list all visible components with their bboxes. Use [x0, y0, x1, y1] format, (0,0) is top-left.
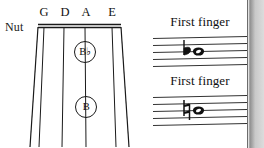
flat-accidental-icon [184, 40, 191, 55]
staff-notation-b-flat [153, 34, 247, 72]
figure-page: Nut G D A E B♭ B First finger [0, 0, 264, 148]
whole-note-b-flat [193, 47, 204, 55]
nut-lines [38, 25, 121, 28]
string-label-d: D [58, 5, 72, 20]
string-label-g: G [37, 5, 51, 20]
string-label-a: A [79, 5, 93, 20]
staff-notation-b-natural [153, 93, 247, 131]
page-gutter-shadow [248, 0, 264, 148]
finger-marker-b-flat: B♭ [74, 41, 96, 63]
whole-note-b-natural [193, 106, 204, 114]
string-label-e: E [105, 5, 119, 20]
violin-fingerboard-diagram: Nut G D A E B♭ B [0, 0, 145, 148]
staff-caption-b-natural: First finger [153, 73, 247, 89]
staff-block-b-flat: First finger [153, 14, 247, 72]
string-label-row: G D A E [38, 5, 130, 21]
natural-accidental-icon [184, 100, 190, 120]
nut-label: Nut [5, 20, 24, 35]
staff-caption-b-flat: First finger [153, 14, 247, 30]
finger-marker-b-natural: B [75, 96, 97, 118]
staff-block-b-natural: First finger [153, 73, 247, 131]
